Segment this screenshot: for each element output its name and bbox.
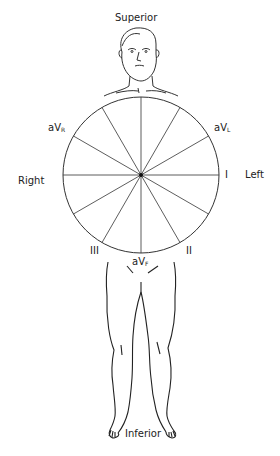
label-superior: Superior [115,12,157,24]
lead-label-avf: aVF [132,256,148,270]
lead-avl-sub: L [227,126,230,133]
human-figure-head [104,28,178,96]
lead-label-ii: II [186,245,192,257]
lead-avf-sub: F [145,260,148,267]
label-right: Right [18,175,44,187]
label-inferior: Inferior [125,428,161,440]
lead-label-avl: aVL [214,122,230,136]
lead-label-i: I [225,169,228,181]
lead-label-avr: aVR [48,122,65,136]
center-point [139,173,143,177]
label-left: Left [245,169,264,181]
lead-label-iii: III [90,245,99,257]
diagram-canvas [0,0,280,456]
lead-avr-sub: R [61,126,65,133]
hexaxial-reference-circle [63,97,219,253]
human-figure-body [106,262,175,438]
lead-avf-main: aV [132,256,145,267]
lead-avr-main: aV [48,122,61,133]
lead-avl-main: aV [214,122,227,133]
